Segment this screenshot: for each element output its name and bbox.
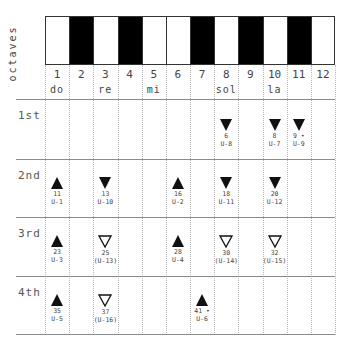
- column-number: 6: [166, 68, 190, 81]
- column-number: 11: [287, 68, 311, 81]
- key-6: [166, 16, 191, 65]
- triangle-up-icon: [51, 294, 63, 306]
- column-number: 12: [311, 68, 335, 81]
- note-number: 6: [211, 132, 241, 140]
- key-4: [118, 16, 143, 65]
- triangle-down-outline-icon: [219, 235, 233, 248]
- note-id: (U-14): [211, 257, 241, 265]
- note-id: U-11: [211, 198, 241, 206]
- column-number: 4: [118, 68, 142, 81]
- note-number: 20: [260, 190, 290, 198]
- key-9: [238, 16, 263, 65]
- key-7: [190, 16, 215, 65]
- key-divider: [238, 16, 239, 65]
- octave-label-1st: 1st: [18, 109, 41, 122]
- column-number: 1: [45, 68, 69, 81]
- triangle-down-outline-icon: [98, 235, 112, 248]
- note-marker: 16U-2: [163, 177, 193, 206]
- triangle-down-icon: [99, 177, 111, 189]
- note-id: U-10: [90, 198, 120, 206]
- column-number: 5: [142, 68, 166, 81]
- triangle-down-icon: [293, 119, 305, 131]
- column-gridline: [311, 65, 312, 335]
- key-divider: [69, 16, 70, 65]
- triangle-up-icon: [196, 294, 208, 306]
- key-divider: [214, 16, 215, 65]
- note-number: 9 •: [284, 132, 314, 140]
- row-separator: [16, 276, 335, 277]
- key-divider: [311, 16, 312, 65]
- row-separator: [16, 99, 335, 100]
- key-divider: [166, 16, 167, 65]
- column-number: 9: [238, 68, 262, 81]
- note-marker: 25(U-13): [90, 235, 120, 265]
- note-number: 18: [211, 190, 241, 198]
- note-id: (U-16): [90, 316, 120, 324]
- note-id: U-9: [284, 140, 314, 148]
- note-id: U-8: [211, 140, 241, 148]
- octave-label-3rd: 3rd: [18, 227, 41, 240]
- key-divider: [287, 16, 288, 65]
- note-marker: 30(U-14): [211, 235, 241, 265]
- triangle-up-icon: [51, 235, 63, 247]
- key-11: [287, 16, 312, 65]
- key-2: [69, 16, 94, 65]
- column-number: 3: [93, 68, 117, 81]
- note-number: 41 •: [187, 307, 217, 315]
- note-number: 30: [211, 249, 241, 257]
- note-marker: 41 •U-6: [187, 294, 217, 323]
- note-id: U-5: [42, 315, 72, 323]
- solfege-sol: sol: [202, 84, 250, 95]
- key-divider: [263, 16, 264, 65]
- solfege-mi: mi: [130, 84, 178, 95]
- triangle-down-icon: [269, 177, 281, 189]
- octave-label-4th: 4th: [18, 286, 41, 299]
- row-separator: [16, 159, 335, 160]
- triangle-down-icon: [220, 177, 232, 189]
- note-id: U-3: [42, 256, 72, 264]
- octave-label-2nd: 2nd: [18, 169, 41, 182]
- column-number: 8: [214, 68, 238, 81]
- column-number: 2: [69, 68, 93, 81]
- octaves-label-text: octaves: [7, 16, 18, 92]
- triangle-down-outline-icon: [268, 235, 282, 248]
- note-number: 37: [90, 308, 120, 316]
- note-id: (U-13): [90, 257, 120, 265]
- column-gridline: [142, 65, 143, 335]
- note-id: U-12: [260, 198, 290, 206]
- note-number: 11: [42, 190, 72, 198]
- note-marker: 37(U-16): [90, 294, 120, 324]
- key-3: [93, 16, 118, 65]
- key-10: [263, 16, 288, 65]
- note-id: U-6: [187, 315, 217, 323]
- solfege-do: do: [33, 84, 81, 95]
- note-marker: 18U-11: [211, 177, 241, 206]
- note-marker: 9 •U-9: [284, 119, 314, 148]
- note-number: 32: [260, 249, 290, 257]
- note-marker: 28U-4: [163, 235, 193, 264]
- key-divider: [93, 16, 94, 65]
- solfege-la: la: [251, 84, 299, 95]
- key-divider: [118, 16, 119, 65]
- column-number: 7: [190, 68, 214, 81]
- note-number: 23: [42, 248, 72, 256]
- row-separator: [16, 217, 335, 218]
- note-number: 25: [90, 249, 120, 257]
- triangle-down-icon: [269, 119, 281, 131]
- solfege-re: re: [81, 84, 129, 95]
- note-marker: 13U-10: [90, 177, 120, 206]
- note-id: U-4: [163, 256, 193, 264]
- triangle-up-icon: [172, 235, 184, 247]
- key-divider: [190, 16, 191, 65]
- octaves-axis-label: octaves: [4, 18, 16, 98]
- key-12: [311, 16, 336, 65]
- note-id: U-2: [163, 198, 193, 206]
- triangle-up-icon: [51, 177, 63, 189]
- note-marker: 11U-1: [42, 177, 72, 206]
- row-separator: [16, 334, 335, 335]
- note-marker: 6U-8: [211, 119, 241, 148]
- note-id: (U-15): [260, 257, 290, 265]
- triangle-up-icon: [172, 177, 184, 189]
- column-gridline: [335, 65, 336, 335]
- note-marker: 32(U-15): [260, 235, 290, 265]
